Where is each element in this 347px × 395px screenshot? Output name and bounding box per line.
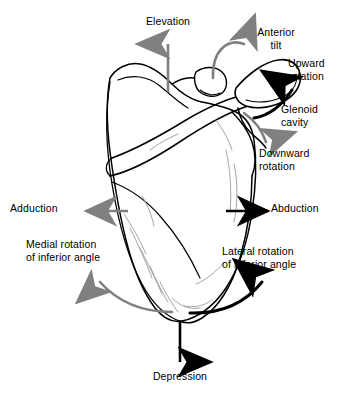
label-elevation: Elevation: [118, 15, 218, 28]
scapula-body-outline: [107, 64, 255, 322]
label-adduction: Adduction: [10, 202, 82, 215]
coracoid-process: [195, 68, 227, 97]
label-anterior-tilt: Anterior tilt: [244, 26, 308, 51]
label-medial-rotation: Medial rotation of inferior angle: [26, 238, 132, 263]
label-abduction: Abduction: [271, 202, 347, 215]
label-glenoid-cavity: Glenoid cavity: [281, 103, 343, 128]
label-depression: Depression: [140, 370, 220, 383]
scapula-motions-diagram: Elevation Anterior tilt Upward rotation …: [0, 0, 347, 395]
label-upward-rotation: Upward rotation: [288, 57, 347, 82]
scapula-bone: [106, 60, 300, 323]
label-downward-rotation: Downward rotation: [259, 147, 345, 172]
label-lateral-rotation: Lateral rotation of inferior angle: [222, 245, 334, 270]
